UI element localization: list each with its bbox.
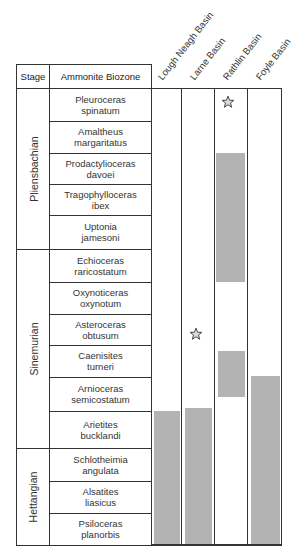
biozone-species: obtusum xyxy=(82,330,118,341)
biozone-header-label: Ammonite Biozone xyxy=(61,71,141,82)
basin-grid-bottom-line xyxy=(151,544,282,546)
biozone-row: Tragophyllocerasibex xyxy=(49,184,152,216)
biozone-species: jamesoni xyxy=(81,232,119,243)
range-bar-foyle xyxy=(251,376,280,544)
biozone-row: Caenisitesturneri xyxy=(49,345,152,378)
biozone-genus: Asteroceras xyxy=(75,319,126,330)
biozone-genus: Alsatites xyxy=(83,486,119,497)
biozone-genus: Arietites xyxy=(83,419,117,430)
biozone-row: Arniocerassemicostatum xyxy=(49,377,152,412)
biozone-species: davoei xyxy=(87,169,115,180)
range-bar-rathlin-lower xyxy=(218,351,245,397)
stage-header-label: Stage xyxy=(21,71,46,82)
biozone-header: Ammonite Biozone xyxy=(49,64,152,89)
biozone-row: Prodactyliocerasdavoei xyxy=(49,153,152,185)
biozone-species: angulata xyxy=(82,465,118,476)
biozone-species: turneri xyxy=(87,361,114,372)
biozone-genus: Echioceras xyxy=(77,255,124,266)
biozone-row: Arietitesbucklandi xyxy=(49,411,152,449)
biozone-species: planorbis xyxy=(81,529,120,540)
biozone-species: raricostatum xyxy=(74,266,126,277)
star-icon xyxy=(189,327,203,341)
biozone-species: bucklandi xyxy=(80,430,120,441)
stage-pliensbachian: Pliensbachian xyxy=(16,88,50,250)
biozone-genus: Psiloceras xyxy=(79,518,123,529)
biozone-genus: Arnioceras xyxy=(78,383,123,394)
range-bar-lough-neagh xyxy=(154,411,180,544)
biozone-genus: Pleuroceras xyxy=(75,94,126,105)
biozone-row: Amaltheusmargaritatus xyxy=(49,121,152,154)
biozone-row: Psilocerasplanorbis xyxy=(49,513,152,546)
star-icon xyxy=(221,95,235,109)
biozone-genus: Schlotheimia xyxy=(73,454,127,465)
stage-sinemurian: Sinemurian xyxy=(16,249,50,449)
biozone-row: Uptoniajamesoni xyxy=(49,215,152,250)
biozone-genus: Tragophylloceras xyxy=(64,189,137,200)
biozone-species: ibex xyxy=(92,200,109,211)
basin-label-lough-neagh: Lough Neagh Basin xyxy=(155,9,215,82)
biozone-genus: Caenisites xyxy=(78,350,122,361)
biozone-row: Echiocerasraricostatum xyxy=(49,249,152,283)
biozone-species: semicostatum xyxy=(71,394,130,405)
biozone-species: margaritatus xyxy=(74,137,127,148)
biozone-row: Pleurocerasspinatum xyxy=(49,88,152,122)
biozone-genus: Uptonia xyxy=(84,221,117,232)
biozone-species: spinatum xyxy=(81,105,120,116)
biozone-row: Schlotheimiaangulata xyxy=(49,448,152,482)
stage-header: Stage xyxy=(16,64,50,89)
biozone-species: oxynotum xyxy=(80,298,121,309)
biozone-row: Oxynoticerasoxynotum xyxy=(49,282,152,315)
stage-label: Sinemurian xyxy=(28,322,40,375)
stage-label: Pliensbachian xyxy=(28,136,40,201)
stage-label: Hettangian xyxy=(28,471,40,522)
stage-hettangian: Hettangian xyxy=(16,448,50,546)
range-bar-rathlin-upper xyxy=(216,153,245,282)
biozone-genus: Amaltheus xyxy=(78,126,123,137)
biozone-row: Alsatitesliasicus xyxy=(49,481,152,514)
biozone-genus: Oxynoticeras xyxy=(73,287,128,298)
biozone-species: liasicus xyxy=(85,497,116,508)
biozone-genus: Prodactylioceras xyxy=(65,158,135,169)
range-bar-larne xyxy=(185,408,212,544)
biozone-row: Asterocerasobtusum xyxy=(49,314,152,346)
